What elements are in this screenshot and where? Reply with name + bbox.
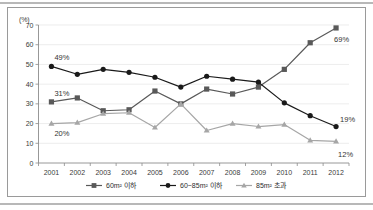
data-point-marker — [281, 122, 287, 127]
x-axis-tick-label: 2005 — [147, 169, 163, 176]
data-point-marker — [256, 85, 261, 90]
data-point-marker — [282, 67, 287, 72]
data-point-marker — [152, 75, 157, 80]
data-point-marker — [178, 85, 183, 90]
data-point-marker — [204, 74, 209, 79]
y-axis-tick-label: 20 — [26, 120, 34, 127]
y-axis-tick-label: 0 — [30, 160, 34, 167]
data-point-marker — [152, 88, 157, 93]
y-axis-tick-label: 60 — [26, 41, 34, 48]
y-axis-tick-label: 10 — [26, 140, 34, 147]
x-axis-tick-label: 2010 — [277, 169, 293, 176]
legend-item[interactable]: 85m² 초과 — [236, 181, 287, 190]
x-axis: 2001200220032004200520062007200820092010… — [39, 163, 350, 176]
data-value-label: 49% — [54, 53, 69, 62]
legend-item-label: 85m² 초과 — [256, 181, 287, 190]
series-line — [51, 104, 336, 141]
y-axis-tick-label: 70 — [26, 22, 34, 29]
data-point-marker — [49, 99, 54, 104]
y-axis-tick-label: 40 — [26, 81, 34, 88]
data-value-label: 31% — [54, 89, 69, 98]
data-point-marker — [49, 64, 54, 69]
gridlines — [39, 25, 350, 143]
data-point-marker — [75, 72, 80, 77]
x-axis-tick-label: 2008 — [225, 169, 241, 176]
legend-item[interactable]: 60~85m² 이하 — [160, 181, 223, 190]
data-point-marker — [204, 86, 209, 91]
y-axis-tick-label: 50 — [26, 61, 34, 68]
data-point-marker — [282, 100, 287, 105]
x-axis-tick-label: 2002 — [70, 169, 86, 176]
data-value-label: 69% — [334, 35, 349, 44]
data-point-marker — [256, 80, 261, 85]
series-line — [51, 28, 336, 111]
x-axis-tick-label: 2012 — [328, 169, 344, 176]
y-axis-tick-label: 30 — [26, 100, 34, 107]
x-axis-tick-label: 2001 — [44, 169, 60, 176]
x-axis-tick-label: 2006 — [173, 169, 189, 176]
x-axis-tick-label: 2004 — [121, 169, 137, 176]
data-point-marker — [230, 121, 236, 126]
line-chart-svg: 010203040506070 200120022003200420052006… — [8, 8, 367, 198]
chart-page: (%) 010203040506070 20012002200320042005… — [0, 0, 373, 210]
data-value-label: 12% — [338, 150, 353, 159]
legend-item-label: 60m² 이하 — [106, 181, 137, 190]
chart-container: (%) 010203040506070 20012002200320042005… — [7, 7, 366, 197]
x-axis-tick-label: 2003 — [95, 169, 111, 176]
legend-item-label: 60~85m² 이하 — [180, 181, 223, 190]
chart-legend: 60m² 이하60~85m² 이하85m² 초과 — [86, 181, 287, 190]
data-value-label: 19% — [340, 115, 355, 124]
data-point-marker — [308, 113, 313, 118]
data-point-marker — [333, 25, 338, 30]
data-point-marker — [101, 67, 106, 72]
data-point-marker — [230, 77, 235, 82]
page-bottom-rule — [0, 203, 373, 205]
data-point-marker — [75, 95, 80, 100]
data-point-marker — [308, 40, 313, 45]
y-axis: 010203040506070 — [26, 22, 39, 167]
legend-item[interactable]: 60m² 이하 — [86, 181, 137, 190]
data-point-marker — [230, 91, 235, 96]
x-axis-tick-label: 2011 — [303, 169, 318, 176]
x-axis-tick-label: 2009 — [251, 169, 267, 176]
x-axis-tick-label: 2007 — [199, 169, 215, 176]
data-point-marker — [166, 183, 171, 188]
data-point-marker — [333, 124, 338, 129]
data-point-marker — [92, 183, 97, 188]
data-value-label: 20% — [54, 129, 69, 138]
page-top-rule — [0, 2, 373, 4]
data-point-marker — [126, 70, 131, 75]
